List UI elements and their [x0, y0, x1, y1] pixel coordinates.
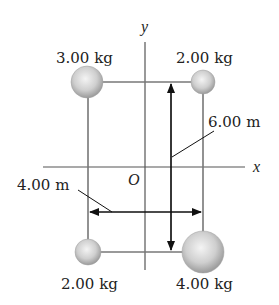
mass-label-bottom-right: 4.00 kg	[176, 275, 233, 293]
width-label: 4.00 m	[17, 176, 69, 194]
mass-top-left	[71, 66, 103, 98]
height-label: 6.00 m	[208, 113, 260, 131]
origin-label: O	[128, 171, 140, 188]
mass-label-top-left: 3.00 kg	[56, 49, 113, 67]
mass-top-right	[191, 70, 215, 94]
x-axis-label: x	[252, 158, 260, 175]
mass-bottom-left	[75, 239, 101, 265]
width-dimension-arrow	[78, 190, 201, 212]
mass-label-top-right: 2.00 kg	[176, 49, 233, 67]
mass-bottom-right	[182, 231, 224, 273]
mass-label-bottom-left: 2.00 kg	[61, 275, 118, 293]
physics-diagram: y x O 6.00 m 4.00 m 3.00 kg 2.00 kg 2.00…	[0, 0, 279, 305]
y-axis-label: y	[139, 18, 149, 36]
